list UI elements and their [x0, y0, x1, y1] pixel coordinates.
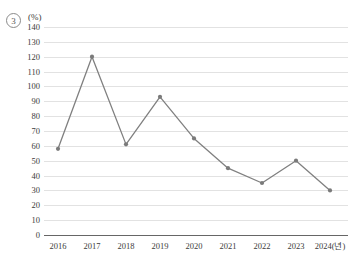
- y-axis-tick-label: 80: [32, 112, 41, 121]
- y-axis-tick-label: 20: [32, 201, 41, 210]
- x-axis-tick-label: 2024(년): [315, 242, 346, 251]
- x-axis-tick-label: 2018: [118, 242, 135, 251]
- data-point-marker: [192, 136, 196, 140]
- y-axis-unit-label: (%): [28, 12, 42, 22]
- data-point-marker: [90, 55, 94, 59]
- data-point-marker: [294, 159, 298, 163]
- series-line: [58, 57, 330, 191]
- y-axis-tick-label: 130: [27, 38, 40, 47]
- chart-figure: 3 (%) 0102030405060708090100110120130140…: [0, 0, 363, 274]
- y-axis-tick-label: 140: [27, 23, 40, 32]
- plot-area: 0102030405060708090100110120130140 20162…: [44, 27, 348, 235]
- data-point-marker: [124, 142, 128, 146]
- x-axis-tick-label: 2021: [220, 242, 237, 251]
- x-axis-tick-label: 2022: [254, 242, 271, 251]
- axis-baseline: [44, 235, 348, 236]
- x-axis-tick-label: 2016: [50, 242, 67, 251]
- y-axis-tick-label: 90: [32, 97, 41, 106]
- x-axis-tick-label: 2023: [288, 242, 305, 251]
- item-number-badge: 3: [6, 13, 21, 28]
- y-axis-tick-label: 60: [32, 142, 41, 151]
- y-axis-tick-label: 100: [27, 82, 40, 91]
- x-axis-tick-label: 2017: [84, 242, 101, 251]
- y-axis-tick-label: 30: [32, 186, 41, 195]
- y-axis-tick-label: 120: [27, 52, 40, 61]
- y-axis-tick-label: 10: [32, 216, 41, 225]
- y-axis-tick-label: 70: [32, 127, 41, 136]
- y-axis-tick-label: 0: [36, 231, 40, 240]
- y-axis-tick-label: 40: [32, 171, 41, 180]
- data-point-marker: [260, 181, 264, 185]
- data-point-marker: [328, 188, 332, 192]
- data-point-marker: [226, 166, 230, 170]
- x-axis-tick-label: 2020: [186, 242, 203, 251]
- x-axis-tick-label: 2019: [152, 242, 169, 251]
- y-axis-tick-label: 50: [32, 156, 41, 165]
- y-axis-tick-label: 110: [28, 67, 40, 76]
- line-series: [44, 27, 348, 235]
- data-point-marker: [56, 147, 60, 151]
- data-point-marker: [158, 95, 162, 99]
